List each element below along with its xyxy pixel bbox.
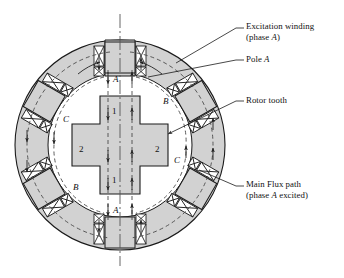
callout-pole-a-letter: A: [264, 54, 269, 64]
callout-rotor-tooth: Rotor tooth: [246, 95, 287, 106]
phase-suffix: ): [277, 32, 280, 42]
rotor-label-2-left: 2: [79, 144, 84, 154]
callout-rotor-tooth-text: Rotor tooth: [246, 95, 287, 105]
pole-label-c-lower-right: C: [174, 155, 181, 165]
figure-canvas: A A B B C C 1 1 2 2 Excitation winding (…: [0, 0, 344, 278]
phase-prefix: (phase: [246, 190, 272, 200]
callout-main-flux-path-line1: Main Flux path: [246, 179, 301, 189]
phase-suffix: excited): [277, 190, 308, 200]
rotor-label-2-right: 2: [155, 144, 160, 154]
callout-main-flux-path-line2: (phase A excited): [246, 190, 308, 200]
pole-label-a-bottom: A: [112, 205, 119, 215]
pole-label-a-top: A: [112, 74, 119, 84]
pole-label-b-upper-right: B: [163, 96, 169, 106]
rotor-label-1-bottom: 1: [112, 175, 117, 185]
callout-excitation-winding: Excitation winding (phase A): [246, 21, 314, 43]
pole-label-c-upper-left: C: [63, 114, 70, 124]
callout-excitation-winding-line1: Excitation winding: [246, 21, 314, 31]
phase-prefix: (phase: [246, 32, 272, 42]
callout-pole-a: Pole A: [246, 54, 270, 65]
leader-excitation-winding: [176, 28, 236, 63]
callout-pole-a-prefix: Pole: [246, 54, 264, 64]
callout-excitation-winding-line2: (phase A): [246, 32, 280, 42]
rotor-label-1-top: 1: [112, 106, 117, 116]
pole-label-b-lower-left: B: [73, 182, 79, 192]
callout-main-flux-path: Main Flux path (phase A excited): [246, 179, 308, 201]
